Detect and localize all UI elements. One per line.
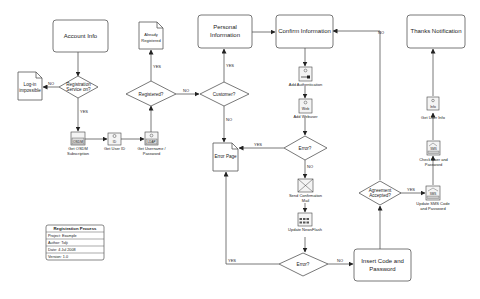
svg-text:and Password: and Password xyxy=(420,206,445,211)
decision-agreement-accepted[interactable]: Agreement Accepted? xyxy=(359,181,401,205)
svg-text:LDAP: LDAP xyxy=(148,140,156,144)
task-update-sms-code[interactable]: SMS Update SMS Code and Password xyxy=(416,186,450,211)
svg-text:Error?: Error? xyxy=(299,146,312,151)
mail-icon xyxy=(298,179,313,192)
svg-text:Mail: Mail xyxy=(302,198,309,203)
svg-text:Information: Information xyxy=(210,32,240,38)
edge-label-no: NO xyxy=(183,88,189,93)
svg-text:Confirm Information: Confirm Information xyxy=(278,28,331,34)
svg-text:Subscription: Subscription xyxy=(67,151,89,156)
svg-text:Registered?: Registered? xyxy=(139,92,164,97)
svg-text:Web: Web xyxy=(302,107,309,111)
svg-text:Get User ID: Get User ID xyxy=(104,146,125,151)
svg-text:ID: ID xyxy=(113,140,117,144)
task-update-newsflash[interactable]: Update NewsFlash xyxy=(288,213,322,232)
svg-text:Log-in: Log-in xyxy=(24,82,37,87)
task-add-webuser[interactable]: Web Add Webuser xyxy=(293,99,318,119)
edge-label-yes: YES xyxy=(80,109,88,114)
task-get-username-password[interactable]: LDAP Get Username / Password xyxy=(137,132,166,156)
svg-text:Update NewsFlash: Update NewsFlash xyxy=(288,227,322,232)
edge-label-no: NO xyxy=(48,81,54,86)
svg-text:Add Webuser: Add Webuser xyxy=(293,114,318,119)
task-get-user-id[interactable]: ID Get User ID xyxy=(104,133,125,151)
edge-label-yes: YES xyxy=(407,187,415,192)
process-personal-information[interactable]: Personal Information xyxy=(198,15,252,48)
svg-text:Password: Password xyxy=(143,151,161,156)
edge-label-no: NO xyxy=(226,117,232,122)
edge-label-yes: YES xyxy=(254,142,262,147)
calculator-icon xyxy=(298,213,312,226)
svg-text:Accepted?: Accepted? xyxy=(369,193,391,198)
svg-text:Error?: Error? xyxy=(297,262,310,267)
svg-text:Password: Password xyxy=(425,162,443,167)
svg-text:Info: Info xyxy=(430,105,436,109)
decision-registered[interactable]: Registered? xyxy=(126,81,176,106)
svg-text:impossible: impossible xyxy=(19,88,41,93)
task-send-confirmation-mail[interactable]: Send Confirmation Mail xyxy=(289,179,322,203)
svg-text:Error Page: Error Page xyxy=(214,154,237,159)
legend-row-author: Author: Tolji xyxy=(48,241,68,245)
svg-text:Thanks Notification: Thanks Notification xyxy=(410,28,461,34)
svg-text:OSDM: OSDM xyxy=(73,140,83,144)
svg-text:Service on?: Service on? xyxy=(66,87,91,92)
svg-text:Registered: Registered xyxy=(141,38,160,43)
key-icon xyxy=(299,67,312,81)
ldap-icon: LDAP xyxy=(145,132,158,145)
decision-customer[interactable]: Customer? xyxy=(200,82,249,106)
svg-text:SMS: SMS xyxy=(430,147,437,151)
edge-label-yes: YES xyxy=(228,258,236,263)
web-user-icon: Web xyxy=(299,99,312,113)
decision-error-top[interactable]: Error? xyxy=(284,136,327,160)
document-error-page[interactable]: Error Page xyxy=(213,143,238,171)
process-insert-code[interactable]: Insert Code and Password xyxy=(354,249,411,281)
svg-text:Personal: Personal xyxy=(213,24,237,30)
sms-icon: SMS xyxy=(426,186,440,200)
edge-label-no: NO xyxy=(307,164,313,169)
svg-text:Already: Already xyxy=(144,32,158,37)
info-icon: Info xyxy=(427,97,439,110)
sms-icon: SMS xyxy=(427,141,440,155)
legend-row-date: Date: 4 Jul 2008 xyxy=(48,248,76,252)
legend-title: Registration Process xyxy=(54,226,98,231)
edge-label-yes: YES xyxy=(153,64,161,69)
flowchart-canvas: NO YES YES NO YES NO YES NO YES NO NO YE… xyxy=(0,0,480,299)
legend-row-version: Version: 1.0 xyxy=(48,255,68,259)
user-id-icon: ID xyxy=(108,133,121,145)
svg-text:Get User Info: Get User Info xyxy=(421,115,446,120)
document-already-registered[interactable]: Already Registered xyxy=(139,22,163,49)
edge-label-no: NO xyxy=(378,30,384,35)
task-check-user-password[interactable]: SMS Check User and Password xyxy=(419,141,448,167)
legend-table: Registration Process Project: Example Au… xyxy=(46,225,104,260)
task-get-user-info[interactable]: Info Get User Info xyxy=(421,97,446,120)
decision-registration-service[interactable]: Registration Service on? xyxy=(59,76,98,98)
database-icon: OSDM xyxy=(71,132,85,145)
svg-text:Password: Password xyxy=(369,266,395,272)
decision-error-bottom[interactable]: Error? xyxy=(279,253,328,276)
svg-text:Customer?: Customer? xyxy=(213,92,236,97)
task-get-osdm[interactable]: OSDM Get OSDM Subscription xyxy=(67,132,89,156)
edge-label-no: NO xyxy=(337,258,343,263)
edge-label-yes: YES xyxy=(226,63,234,68)
svg-text:SMS: SMS xyxy=(430,192,437,196)
svg-text:Add Authentication: Add Authentication xyxy=(289,82,322,87)
process-confirm-information[interactable]: Confirm Information xyxy=(276,15,333,48)
task-add-authentication[interactable]: Add Authentication xyxy=(289,67,322,87)
process-thanks-notification[interactable]: Thanks Notification xyxy=(407,15,465,48)
document-login-impossible[interactable]: Log-in impossible xyxy=(18,72,42,100)
svg-text:Account Info: Account Info xyxy=(64,33,98,39)
legend-row-project: Project: Example xyxy=(48,234,77,238)
process-account-info[interactable]: Account Info xyxy=(53,20,108,52)
svg-text:Insert Code and: Insert Code and xyxy=(361,258,404,264)
